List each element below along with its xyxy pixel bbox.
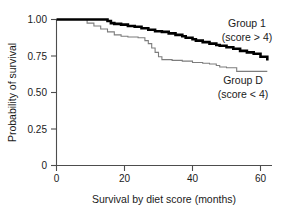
y-tick-label-1.00: 1.00: [28, 14, 48, 25]
chart-canvas: 1.00 0.75 0.50 0.25 0 0 20 40 60 Surviva…: [0, 0, 293, 215]
x-axis-tick-labels: 0 20 40 60: [54, 173, 267, 184]
y-axis-ticks: [51, 20, 57, 166]
legend-label-group-d-name: Group D: [223, 74, 263, 86]
x-tick-label-0: 0: [54, 173, 60, 184]
legend-group-d: Group D (score < 4): [218, 74, 268, 100]
y-axis-tick-labels: 1.00 0.75 0.50 0.25 0: [28, 14, 48, 171]
y-tick-label-0.50: 0.50: [28, 87, 48, 98]
y-tick-label-0.25: 0.25: [28, 124, 48, 135]
legend-group-1: Group 1 (score > 4): [222, 17, 272, 43]
x-tick-label-60: 60: [255, 173, 267, 184]
legend-label-group-1-name: Group 1: [228, 17, 266, 29]
x-axis-title: Survival by diet score (months): [92, 193, 236, 205]
x-axis-ticks: [57, 166, 261, 172]
y-tick-label-0: 0: [41, 160, 47, 171]
y-tick-label-0.75: 0.75: [28, 51, 48, 62]
survival-chart-figure: 1.00 0.75 0.50 0.25 0 0 20 40 60 Surviva…: [0, 0, 293, 215]
y-axis-title: Probability of survival: [6, 43, 18, 142]
x-tick-label-40: 40: [187, 173, 199, 184]
legend-label-group-1-condition: (score > 4): [222, 31, 272, 43]
legend-label-group-d-condition: (score < 4): [218, 88, 268, 100]
x-tick-label-20: 20: [119, 173, 131, 184]
